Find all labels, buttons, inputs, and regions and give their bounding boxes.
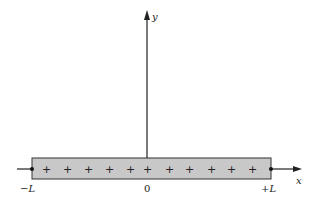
right-end-label: +L (261, 183, 276, 194)
charge-plus: + (63, 163, 72, 176)
charge-plus: + (227, 163, 236, 176)
right-end-dot-icon (269, 167, 273, 171)
charge-plus: + (84, 163, 93, 176)
y-axis-label: y (151, 11, 158, 22)
origin-label: 0 (144, 183, 150, 194)
x-axis-label: x (296, 175, 302, 186)
charge-plus: + (248, 163, 257, 176)
charge-plus: + (207, 163, 216, 176)
charge-plus: + (126, 163, 135, 176)
left-end-label: −L (20, 183, 35, 194)
charge-plus: + (42, 163, 51, 176)
x-axis-arrow-icon (293, 166, 302, 172)
charge-plus: + (185, 163, 194, 176)
charge-plus: + (165, 163, 174, 176)
charge-plus: + (105, 163, 114, 176)
diagram-canvas: + + + + + + + + + + + x y −L 0 +L (0, 0, 309, 204)
left-end-dot-icon (30, 167, 34, 171)
y-axis-arrow-icon (144, 10, 150, 20)
charge-plus: + (143, 163, 152, 176)
